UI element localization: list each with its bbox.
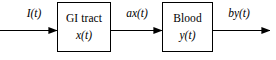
block-gi-tract-variable: x(t) — [57, 30, 111, 42]
input-arrow-label: I(t) — [14, 8, 54, 20]
block-blood-variable: y(t) — [162, 30, 213, 42]
block-blood-title: Blood — [162, 13, 213, 25]
output-arrow-label: by(t) — [214, 8, 264, 20]
block-gi-tract-title: GI tract — [57, 13, 111, 25]
block-gi-tract — [58, 3, 111, 52]
middle-arrow-label: ax(t) — [112, 8, 162, 20]
block-blood — [163, 3, 213, 52]
block-diagram: GI tract x(t) Blood y(t) I(t) ax(t) by(t… — [0, 0, 276, 60]
